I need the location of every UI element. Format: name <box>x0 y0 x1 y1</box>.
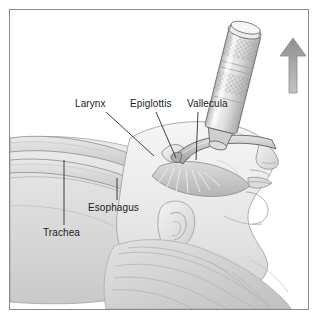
figure-frame: Larynx Epiglottis Vallecula Esophagus Tr… <box>9 9 309 310</box>
label-esophagus: Esophagus <box>88 203 139 213</box>
label-epiglottis: Epiglottis <box>130 99 172 109</box>
label-vallecula: Vallecula <box>187 99 228 109</box>
figure-root: Larynx Epiglottis Vallecula Esophagus Tr… <box>0 0 318 319</box>
laryngoscopy-illustration <box>10 10 308 309</box>
label-trachea: Trachea <box>43 228 80 238</box>
label-larynx: Larynx <box>75 99 106 109</box>
